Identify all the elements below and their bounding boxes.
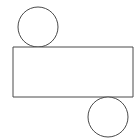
top-circle-shape bbox=[18, 7, 58, 47]
geometry-svg bbox=[0, 0, 140, 140]
main-rectangle-shape bbox=[13, 47, 133, 97]
bottom-circle-shape bbox=[88, 97, 128, 137]
figure-canvas bbox=[0, 0, 140, 140]
